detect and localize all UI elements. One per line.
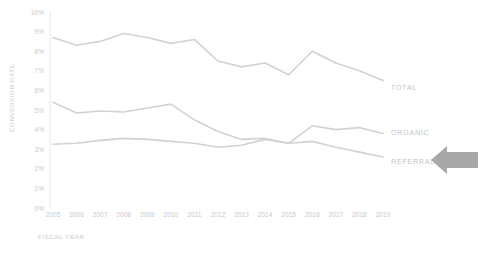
y-axis-title: CONVERSION RATE [8, 64, 15, 132]
x-tick-label: 2010 [164, 211, 179, 218]
y-tick-label: 7% [34, 67, 44, 74]
y-tick-label: 3% [34, 146, 44, 153]
series-line-referral [53, 138, 383, 157]
chart-canvas: CONVERSION RATE 10% 9% 8% 7% 6% 5% 4% 3%… [0, 0, 487, 254]
y-tick-labels: 10% 9% 8% 7% 6% 5% 4% 3% 2% 1% 0% [31, 9, 44, 212]
x-tick-label: 2016 [305, 211, 320, 218]
y-tick-label: 9% [34, 28, 44, 35]
x-tick-label: 2019 [376, 211, 391, 218]
series-line-organic [53, 102, 383, 143]
x-tick-label: 2007 [93, 211, 108, 218]
x-tick-label: 2018 [352, 211, 367, 218]
x-tick-label: 2011 [187, 211, 202, 218]
x-tick-label: 2009 [140, 211, 155, 218]
y-tick-label: 5% [34, 107, 44, 114]
x-tick-label: 2006 [69, 211, 84, 218]
x-tick-label: 2015 [281, 211, 296, 218]
y-tick-label: 1% [34, 185, 44, 192]
series-label-total: TOTAL [391, 83, 417, 92]
conversion-rate-chart: CONVERSION RATE 10% 9% 8% 7% 6% 5% 4% 3%… [0, 0, 487, 254]
x-tick-label: 2008 [116, 211, 131, 218]
y-tick-label: 8% [34, 48, 44, 55]
y-tick-label: 0% [34, 205, 44, 212]
x-tick-label: 2012 [211, 211, 226, 218]
series-label-organic: ORGANIC [391, 128, 429, 137]
y-tick-label: 4% [34, 126, 44, 133]
x-tick-label: 2014 [258, 211, 273, 218]
referral-callout-arrow-icon [431, 146, 478, 174]
x-tick-label: 2013 [234, 211, 249, 218]
x-tick-label: 2005 [46, 211, 61, 218]
y-tick-label: 10% [31, 9, 44, 16]
x-tick-label: 2017 [329, 211, 344, 218]
series-line-total [53, 34, 383, 81]
x-tick-labels: 2005 2006 2007 2008 2009 2010 2011 2012 … [46, 211, 391, 218]
y-tick-label: 2% [34, 165, 44, 172]
series-label-referral: REFERRAL [391, 157, 435, 166]
x-axis-title: FISCAL YEAR [38, 233, 85, 240]
y-tick-label: 6% [34, 87, 44, 94]
